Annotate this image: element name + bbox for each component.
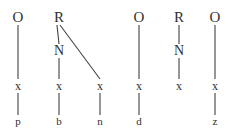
tree-node-o: O	[13, 10, 24, 25]
tree-node-n: n	[97, 116, 103, 127]
tree-node-d: d	[136, 116, 142, 127]
tree-edge	[60, 25, 100, 79]
tree-node-o: O	[210, 10, 221, 25]
tree-node-b: b	[56, 116, 62, 127]
tree-node-x: x	[97, 80, 103, 92]
tree-node-o: O	[134, 10, 145, 25]
tree-node-x: x	[136, 80, 142, 92]
tree-node-x: x	[56, 80, 62, 92]
tree-node-n: N	[174, 44, 184, 58]
tree-node-x: x	[15, 80, 21, 92]
tree-node-p: p	[15, 116, 21, 127]
tree-node-x: x	[212, 80, 218, 92]
tree-node-r: R	[54, 10, 64, 25]
tree-node-x: x	[176, 80, 182, 92]
tree-edges-layer	[0, 0, 240, 133]
tree-node-r: R	[174, 10, 184, 25]
tree-node-z: z	[213, 116, 218, 127]
tree-diagram-canvas: OxpRNxbxnOxdRNxOxz	[0, 0, 240, 133]
tree-node-n: N	[54, 44, 64, 58]
tree-edge	[57, 25, 59, 44]
